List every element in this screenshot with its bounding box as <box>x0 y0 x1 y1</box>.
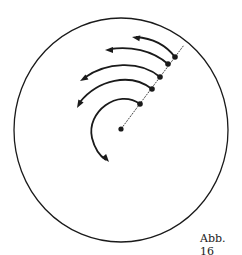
motion-arc <box>91 99 140 160</box>
radial-point <box>172 54 178 60</box>
radial-point <box>157 74 163 80</box>
arrowhead-icon <box>102 154 112 164</box>
radial-point <box>137 101 143 107</box>
center-point <box>118 126 123 131</box>
arc-group <box>74 34 175 164</box>
arrowhead-icon <box>105 47 113 53</box>
motion-arc <box>84 65 160 78</box>
figure-caption: Abb. 16 <box>200 232 242 255</box>
diagram-canvas <box>0 0 242 255</box>
arrowhead-icon <box>74 100 83 110</box>
motion-arc <box>80 80 152 102</box>
motion-arc <box>136 37 175 57</box>
radial-point <box>149 86 155 92</box>
arrowhead-icon <box>131 34 140 41</box>
motion-arc <box>110 48 168 64</box>
radial-point <box>165 61 171 67</box>
